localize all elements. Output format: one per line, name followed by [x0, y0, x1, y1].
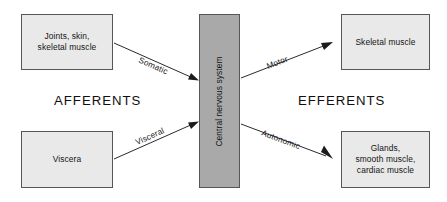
node-central-nervous-system: Central nervous system: [199, 14, 240, 188]
edge-motor: Motor: [241, 42, 333, 78]
node-label-glands: Glands, smooth muscle, cardiac muscle: [355, 143, 415, 176]
edge-autonomic: Autonomic: [241, 124, 333, 159]
nervous-system-diagram: Joints, skin, skeletal muscle Viscera Ce…: [0, 0, 447, 202]
edge-somatic: Somatic: [114, 43, 199, 81]
edge-somatic-line: [114, 43, 193, 78]
heading-afferents: AFFERENTS: [54, 93, 141, 108]
node-label-cns: Central nervous system: [214, 56, 225, 146]
edge-autonomic-arrowhead: [321, 146, 333, 160]
edge-label-motor: Motor: [265, 55, 289, 71]
node-joints-skin-skeletal-muscle: Joints, skin, skeletal muscle: [21, 14, 113, 70]
node-glands-smooth-cardiac-muscle: Glands, smooth muscle, cardiac muscle: [341, 131, 430, 188]
edge-label-autonomic: Autonomic: [260, 128, 301, 151]
node-label-viscera: Viscera: [53, 154, 81, 165]
node-skeletal-muscle: Skeletal muscle: [341, 14, 430, 70]
edge-motor-arrowhead: [321, 42, 333, 50]
edge-label-visceral: Visceral: [134, 126, 166, 147]
edge-visceral-line: [114, 124, 193, 159]
edge-somatic-arrowhead: [188, 73, 199, 81]
edge-visceral-arrowhead: [188, 122, 199, 130]
edge-autonomic-line: [241, 124, 326, 156]
edge-visceral: Visceral: [114, 122, 199, 160]
edge-motor-line: [241, 45, 326, 78]
edge-label-somatic: Somatic: [137, 56, 169, 77]
heading-efferents: EFFERENTS: [298, 93, 385, 108]
node-viscera: Viscera: [21, 131, 113, 188]
node-label-skeletal-muscle: Skeletal muscle: [355, 37, 415, 48]
node-label-joints-skin: Joints, skin, skeletal muscle: [38, 31, 97, 53]
